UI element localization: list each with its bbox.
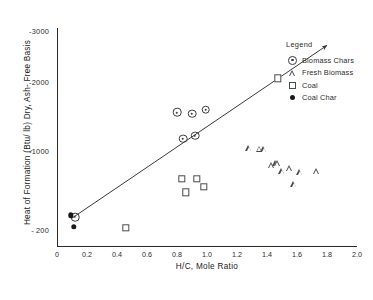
data-point xyxy=(178,175,185,182)
x-tick-label: 0.8 xyxy=(172,250,182,259)
data-point xyxy=(173,108,182,117)
data-point xyxy=(287,165,293,171)
legend-label: Coal Char xyxy=(302,93,337,102)
data-point xyxy=(261,146,267,152)
x-axis-title: H/C, Mole Ratio xyxy=(57,262,357,271)
legend-item: Fresh Biomass xyxy=(286,67,354,80)
y-axis-title: Heat of Formation (Btu/ lb) Dry, Ash- Fr… xyxy=(23,25,32,240)
data-point xyxy=(291,181,297,187)
data-point xyxy=(201,105,210,114)
x-tick-label: 2.0 xyxy=(352,250,362,259)
legend-title: Legend xyxy=(286,40,354,49)
x-tick-label: 0.4 xyxy=(112,250,122,259)
legend-item: Coal xyxy=(286,79,354,92)
data-point xyxy=(188,110,197,119)
legend-label: Biomass Chars xyxy=(302,56,354,65)
x-tick-label: 0.6 xyxy=(142,250,152,259)
legend-label: Coal xyxy=(302,81,318,90)
data-point xyxy=(297,169,303,175)
data-point xyxy=(274,75,281,82)
x-tick-label: 0.2 xyxy=(82,250,92,259)
y-axis-line xyxy=(57,28,58,246)
legend-marker-icon xyxy=(286,56,299,65)
data-point xyxy=(275,160,281,166)
chart-figure: - 200-1000-2000-3000 00.20.40.60.81.01.2… xyxy=(0,0,373,300)
x-tick-label: 1.8 xyxy=(322,250,332,259)
data-point xyxy=(122,224,129,231)
data-point xyxy=(191,132,200,141)
legend: Legend Biomass CharsFresh BiomassCoalCoa… xyxy=(286,40,354,104)
data-point xyxy=(246,145,252,151)
x-axis-line xyxy=(57,246,357,247)
x-tick-label: 1.2 xyxy=(232,250,242,259)
data-point xyxy=(279,168,285,174)
legend-label: Fresh Biomass xyxy=(302,68,353,77)
data-point xyxy=(193,175,200,182)
x-tick-label: 1.4 xyxy=(262,250,272,259)
legend-marker-icon xyxy=(286,95,299,100)
legend-marker-icon xyxy=(286,82,299,89)
data-point xyxy=(314,168,320,174)
legend-item: Coal Char xyxy=(286,92,354,105)
legend-entries: Biomass CharsFresh BiomassCoalCoal Char xyxy=(286,54,354,104)
data-point xyxy=(179,134,188,143)
y-tick-label: -3000 xyxy=(29,27,49,36)
y-tick-label: - 200 xyxy=(31,226,49,235)
data-point xyxy=(71,224,76,229)
y-tick-label: -2000 xyxy=(29,78,49,87)
x-tick-label: 1.0 xyxy=(202,250,212,259)
x-tick-label: 1.6 xyxy=(292,250,302,259)
legend-item: Biomass Chars xyxy=(286,54,354,67)
data-point xyxy=(200,183,207,190)
data-point xyxy=(182,189,189,196)
legend-marker-icon xyxy=(286,70,299,76)
x-tick-label: 0 xyxy=(55,250,59,259)
y-tick-label: -1000 xyxy=(29,147,49,156)
